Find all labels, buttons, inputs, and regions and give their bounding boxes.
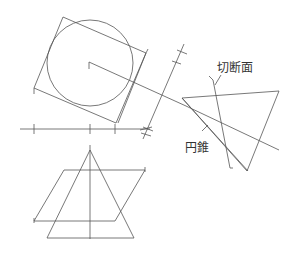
cutting-plane-parallelogram xyxy=(34,170,145,221)
cone-generator-line xyxy=(182,98,248,171)
front-view-cone xyxy=(47,150,134,238)
cutting-plane-leader xyxy=(215,75,221,85)
cone-leader xyxy=(202,125,208,131)
cone-label: 円錐 xyxy=(185,142,209,154)
side-view-cone xyxy=(182,91,279,171)
projection-diagram xyxy=(0,0,294,258)
center-projection-line xyxy=(89,62,186,106)
axis-tick xyxy=(141,133,151,136)
corner-tick xyxy=(146,49,148,53)
axis-tick xyxy=(177,50,187,54)
cutting-plane-label: 切断面 xyxy=(217,62,253,74)
square-edge-extension xyxy=(118,53,146,123)
cone-base-circle xyxy=(47,20,133,106)
auxiliary-axis xyxy=(143,44,184,139)
enclosing-square xyxy=(34,17,146,123)
